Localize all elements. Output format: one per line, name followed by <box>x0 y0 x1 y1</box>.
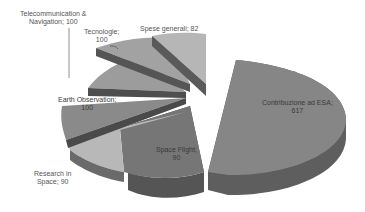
label-tecnologie: Tecnologie; 100 <box>84 28 119 44</box>
label-research-in-space: Research in Space; 90 <box>34 170 71 186</box>
label-contribuzione-esa: Contribuzione ad ESA; 617 <box>262 99 333 115</box>
label-earth-observation: Earth Observation; 100 <box>58 96 116 112</box>
label-spese-generali: Spese generali; 82 <box>140 25 198 33</box>
label-space-flight: Space Flight; 90 <box>156 146 197 162</box>
slice-contribuzione-esa <box>208 60 346 195</box>
label-telecom-navigation: Telecommunication & Navigation; 100 <box>20 10 87 26</box>
